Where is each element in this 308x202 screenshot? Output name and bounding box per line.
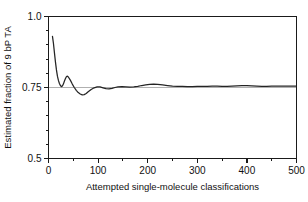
x-axis-tick-labels: 0100200300400500 bbox=[46, 165, 306, 176]
y-axis-tick-labels: 0.50.751.0 bbox=[22, 11, 42, 164]
x-tick-label: 500 bbox=[288, 165, 305, 176]
chart-canvas: 0.50.751.0 0100200300400500 Estimated fr… bbox=[0, 0, 308, 202]
x-axis-title: Attempted single-molecule classification… bbox=[86, 181, 259, 192]
x-tick-label: 0 bbox=[46, 165, 52, 176]
chart-figure: 0.50.751.0 0100200300400500 Estimated fr… bbox=[0, 0, 308, 202]
x-tick-label: 100 bbox=[90, 165, 107, 176]
y-tick-label: 0.5 bbox=[28, 153, 42, 164]
y-tick-label: 0.75 bbox=[22, 82, 42, 93]
y-tick-label: 1.0 bbox=[28, 11, 42, 22]
data-line-estimated-fraction bbox=[52, 36, 296, 94]
data-series-group bbox=[52, 36, 296, 94]
x-tick-label: 200 bbox=[139, 165, 156, 176]
x-tick-label: 400 bbox=[239, 165, 256, 176]
x-tick-label: 300 bbox=[189, 165, 206, 176]
x-axis-ticks bbox=[49, 159, 297, 164]
y-axis-title: Estimated fraction of 9 bP TA bbox=[2, 26, 13, 149]
y-axis-ticks bbox=[44, 17, 49, 159]
